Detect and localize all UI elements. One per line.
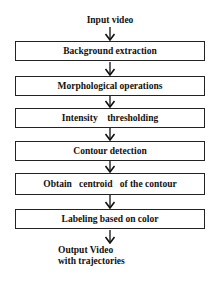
step-morphological-operations: Morphological operations [15, 76, 205, 96]
arrow-down-icon [104, 161, 116, 173]
arrow-down-icon [104, 230, 116, 244]
input-label: Input video [0, 15, 220, 26]
step-obtain-centroid: Obtain centroid of the contour [15, 173, 205, 195]
arrow-down-icon [104, 96, 116, 108]
arrow-down-icon [104, 195, 116, 209]
step-background-extraction: Background extraction [15, 41, 205, 61]
output-label-line2: with trajectories [58, 256, 198, 267]
step-contour-detection: Contour detection [15, 141, 205, 161]
arrow-down-icon [104, 62, 116, 76]
step-labeling-by-color: Labeling based on color [15, 209, 205, 229]
output-label-line1: Output Video [58, 245, 198, 256]
step-intensity-thresholding: Intensity thresholding [15, 108, 205, 128]
arrow-down-icon [104, 128, 116, 141]
arrow-down-icon [104, 27, 116, 41]
